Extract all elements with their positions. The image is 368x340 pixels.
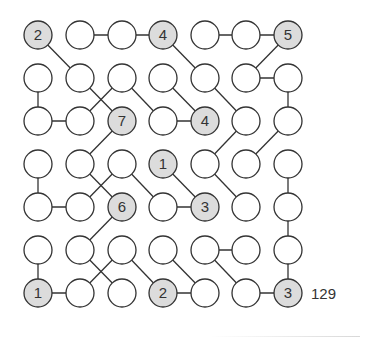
- node-circle[interactable]: [149, 236, 177, 264]
- empty-node[interactable]: [274, 150, 302, 178]
- empty-node[interactable]: [191, 150, 219, 178]
- empty-node[interactable]: [24, 150, 52, 178]
- node-circle[interactable]: [108, 279, 136, 307]
- clue-node[interactable]: 2: [24, 21, 52, 49]
- empty-node[interactable]: [274, 107, 302, 135]
- empty-node[interactable]: [66, 107, 94, 135]
- node-circle[interactable]: [232, 21, 260, 49]
- empty-node[interactable]: [66, 64, 94, 92]
- node-circle[interactable]: [66, 150, 94, 178]
- clue-value: 2: [34, 26, 42, 43]
- node-circle[interactable]: [149, 193, 177, 221]
- node-circle[interactable]: [24, 64, 52, 92]
- node-circle[interactable]: [232, 193, 260, 221]
- empty-node[interactable]: [24, 107, 52, 135]
- clue-node[interactable]: 5: [274, 21, 302, 49]
- empty-node[interactable]: [24, 236, 52, 264]
- empty-node[interactable]: [232, 150, 260, 178]
- empty-node[interactable]: [149, 64, 177, 92]
- clue-value: 7: [118, 112, 126, 129]
- empty-node[interactable]: [66, 21, 94, 49]
- empty-node[interactable]: [108, 21, 136, 49]
- clue-node[interactable]: 2: [149, 279, 177, 307]
- empty-node[interactable]: [149, 107, 177, 135]
- node-circle[interactable]: [66, 279, 94, 307]
- node-circle[interactable]: [191, 64, 219, 92]
- empty-node[interactable]: [108, 279, 136, 307]
- empty-node[interactable]: [232, 64, 260, 92]
- empty-node[interactable]: [191, 64, 219, 92]
- clue-node[interactable]: 3: [274, 279, 302, 307]
- clue-node[interactable]: 7: [108, 107, 136, 135]
- node-circle[interactable]: [108, 150, 136, 178]
- empty-node[interactable]: [24, 193, 52, 221]
- empty-node[interactable]: [232, 279, 260, 307]
- clue-node[interactable]: 1: [149, 150, 177, 178]
- node-circle[interactable]: [232, 107, 260, 135]
- node-circle[interactable]: [108, 236, 136, 264]
- node-circle[interactable]: [66, 107, 94, 135]
- empty-node[interactable]: [149, 236, 177, 264]
- node-circle[interactable]: [149, 107, 177, 135]
- node-circle[interactable]: [66, 236, 94, 264]
- node-circle[interactable]: [66, 64, 94, 92]
- clue-node[interactable]: 4: [149, 21, 177, 49]
- clue-value: 3: [201, 198, 209, 215]
- node-circle[interactable]: [274, 193, 302, 221]
- node-circle[interactable]: [274, 107, 302, 135]
- empty-node[interactable]: [108, 150, 136, 178]
- empty-node[interactable]: [274, 64, 302, 92]
- divider: [210, 336, 360, 337]
- node-circle[interactable]: [149, 64, 177, 92]
- puzzle-number: 129: [311, 285, 336, 302]
- node-circle[interactable]: [66, 193, 94, 221]
- empty-node[interactable]: [66, 193, 94, 221]
- node-circle[interactable]: [24, 150, 52, 178]
- clue-value: 4: [159, 26, 167, 43]
- node-circle[interactable]: [66, 21, 94, 49]
- empty-node[interactable]: [149, 193, 177, 221]
- node-circle[interactable]: [191, 236, 219, 264]
- clue-value: 4: [201, 112, 209, 129]
- node-circle[interactable]: [274, 236, 302, 264]
- empty-node[interactable]: [274, 193, 302, 221]
- clue-value: 1: [159, 155, 167, 172]
- empty-node[interactable]: [232, 21, 260, 49]
- node-circle[interactable]: [24, 193, 52, 221]
- clue-value: 5: [284, 26, 292, 43]
- empty-node[interactable]: [24, 64, 52, 92]
- node-circle[interactable]: [191, 150, 219, 178]
- clue-node[interactable]: 1: [24, 279, 52, 307]
- empty-node[interactable]: [108, 236, 136, 264]
- node-circle[interactable]: [108, 21, 136, 49]
- empty-node[interactable]: [232, 236, 260, 264]
- clue-node[interactable]: 6: [108, 193, 136, 221]
- node-circle[interactable]: [232, 236, 260, 264]
- empty-node[interactable]: [232, 107, 260, 135]
- empty-node[interactable]: [66, 236, 94, 264]
- node-circle[interactable]: [191, 279, 219, 307]
- clue-value: 6: [118, 198, 126, 215]
- clue-node[interactable]: 4: [191, 107, 219, 135]
- clue-node[interactable]: 3: [191, 193, 219, 221]
- empty-node[interactable]: [191, 279, 219, 307]
- node-circle[interactable]: [232, 150, 260, 178]
- node-circle[interactable]: [24, 107, 52, 135]
- empty-node[interactable]: [232, 193, 260, 221]
- empty-node[interactable]: [274, 236, 302, 264]
- node-circle[interactable]: [232, 64, 260, 92]
- empty-node[interactable]: [191, 21, 219, 49]
- node-circle[interactable]: [191, 21, 219, 49]
- clue-value: 2: [159, 284, 167, 301]
- empty-node[interactable]: [191, 236, 219, 264]
- clue-value: 3: [284, 284, 292, 301]
- empty-node[interactable]: [108, 64, 136, 92]
- node-circle[interactable]: [274, 150, 302, 178]
- node-circle[interactable]: [274, 64, 302, 92]
- empty-node[interactable]: [66, 279, 94, 307]
- empty-node[interactable]: [66, 150, 94, 178]
- node-circle[interactable]: [232, 279, 260, 307]
- node-circle[interactable]: [24, 236, 52, 264]
- clue-value: 1: [34, 284, 42, 301]
- node-circle[interactable]: [108, 64, 136, 92]
